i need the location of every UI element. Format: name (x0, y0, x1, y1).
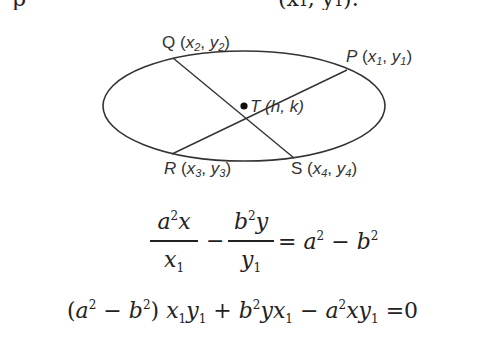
label-r-y: y (211, 159, 220, 178)
eq2-equals: = (386, 298, 404, 323)
eq1-a-exp: 2 (317, 229, 325, 243)
eq2-t2-x: x (273, 298, 285, 323)
fraction1-numerator: a2x (150, 208, 198, 236)
intersection-point-t (240, 102, 247, 109)
eq2-t3-y: y (359, 298, 371, 323)
fraction1-bar (150, 240, 198, 242)
label-r: R (x3, y3) (164, 160, 231, 179)
label-q-close: ) (224, 33, 230, 52)
eq2-open-paren: ( (67, 298, 76, 323)
label-q-y: y (210, 33, 219, 52)
label-r-letter: R (164, 159, 176, 178)
eq2-t1-y-sub: 1 (199, 312, 207, 326)
eq1-equals: = (278, 229, 296, 254)
label-p-comma: , (382, 47, 391, 66)
eq2-minus1: − (103, 298, 121, 323)
label-r-x: x (187, 159, 196, 178)
label-q-comma: , (200, 33, 209, 52)
label-r-open: ( (176, 159, 186, 178)
equation1-minus: − (206, 228, 224, 253)
eq2-t3-a-exp: 2 (339, 298, 347, 312)
fraction2-bar (228, 240, 274, 242)
label-p-x: x (368, 47, 377, 66)
eq2-zero: 0 (404, 298, 418, 323)
frac2-b: b (234, 209, 248, 234)
eq1-minus: − (331, 229, 349, 254)
label-s-close: ) (351, 159, 357, 178)
label-s-x: x (313, 159, 322, 178)
frac1-den-x: x (164, 247, 176, 272)
label-s-open: ( (302, 159, 312, 178)
eq2-b-exp: 2 (143, 298, 151, 312)
frac2-den-sub: 1 (253, 261, 261, 275)
eq2-t2-y: y (260, 298, 272, 323)
equation1-fraction2: b2y y1 (228, 208, 274, 274)
eq2-t3-y-sub: 1 (371, 312, 379, 326)
eq2-t3-x: x (346, 298, 358, 323)
equation1-fraction1: a2x x1 (150, 208, 198, 274)
eq2-b: b (129, 298, 143, 323)
label-r-comma: , (201, 159, 210, 178)
eq2-minus2: − (300, 298, 318, 323)
eq2-t1-y: y (186, 298, 198, 323)
label-p-close: ) (406, 47, 412, 66)
fraction2-numerator: b2y (228, 208, 274, 236)
label-t-letter: T (250, 97, 260, 116)
frac2-den-y: y (241, 247, 253, 272)
label-q-open: ( (175, 33, 185, 52)
eq2-t2-b: b (239, 298, 253, 323)
fraction2-denominator: y1 (228, 246, 274, 274)
label-p-open: ( (357, 47, 367, 66)
eq2-t3-a: a (325, 298, 338, 323)
eq2-close-paren: ) (151, 298, 160, 323)
frac1-den-sub: 1 (176, 261, 184, 275)
label-p: P (x1, y1) (346, 48, 412, 67)
label-q-letter: Q (162, 33, 175, 52)
eq2-a-exp: 2 (89, 298, 97, 312)
eq1-a: a (303, 229, 316, 254)
frac2-b-exp: 2 (248, 209, 256, 223)
frac1-x: x (178, 209, 190, 234)
label-t-coords: (h, k) (260, 97, 303, 116)
frac2-y: y (256, 209, 268, 234)
eq2-t1-x: x (166, 298, 178, 323)
label-q-x: x (186, 33, 195, 52)
eq1-b: b (357, 229, 371, 254)
eq2-plus: + (213, 298, 231, 323)
frac1-a: a (157, 209, 170, 234)
label-s: S (x4, y4) (291, 160, 357, 179)
label-r-close: ) (225, 159, 231, 178)
label-t: T (h, k) (250, 98, 304, 115)
label-q: Q (x2, y2) (162, 34, 230, 53)
eq1-b-exp: 2 (371, 229, 379, 243)
label-p-letter: P (346, 47, 357, 66)
eq2-a: a (76, 298, 89, 323)
label-s-letter: S (291, 159, 302, 178)
equation2: (a2 − b2) x1y1 + b2yx1 − a2xy1 =0 (67, 298, 418, 323)
eq2-t2-x-sub: 1 (285, 312, 293, 326)
ellipse-chords-figure (0, 0, 491, 344)
label-s-comma: , (327, 159, 336, 178)
equation1-rhs: = a2 − b2 (278, 229, 378, 254)
fraction1-denominator: x1 (150, 246, 198, 274)
